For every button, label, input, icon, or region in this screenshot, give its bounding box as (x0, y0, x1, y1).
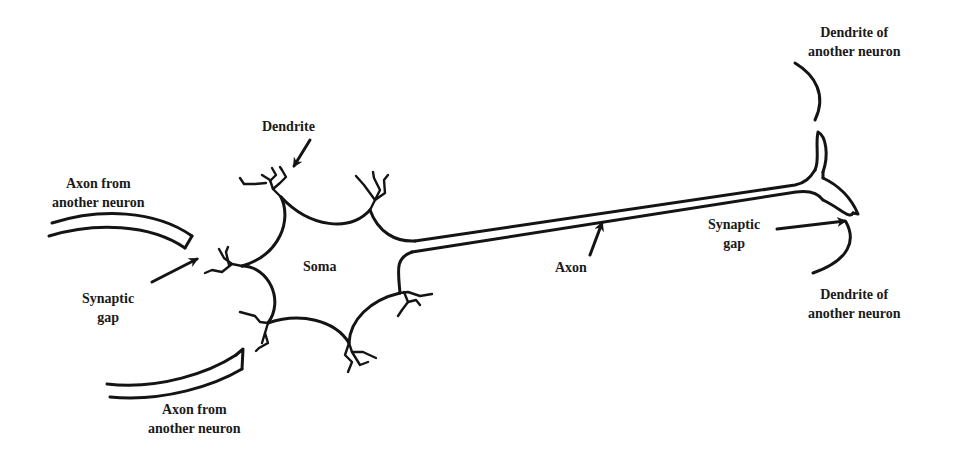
label-line-2: another neuron (52, 193, 144, 212)
neuron-diagram: Dendrite Soma Axon Axon from another neu… (0, 0, 963, 456)
synaptic-gap-left-arrow (152, 259, 197, 282)
label-soma-text: Soma (303, 257, 336, 276)
label-line-2: another neuron (808, 304, 900, 323)
label-line-1: Dendrite of (808, 23, 900, 42)
label-axon-from-another-neuron-top: Axon from another neuron (52, 174, 144, 212)
other-neuron-dendrites (795, 63, 850, 273)
label-synaptic-gap-left: Synaptic gap (82, 289, 134, 327)
incoming-axon-top (49, 214, 192, 248)
axon-shaft (412, 170, 823, 252)
label-axon-text: Axon (555, 258, 587, 277)
label-axon: Axon (555, 258, 587, 277)
label-soma: Soma (303, 257, 336, 276)
label-line-2: gap (708, 234, 760, 253)
label-line-1: Synaptic (82, 289, 134, 308)
label-dendrite-of-another-neuron-bottom: Dendrite of another neuron (808, 285, 900, 323)
axon-arrow (590, 223, 602, 255)
synaptic-gap-right-arrow (777, 221, 845, 229)
label-line-2: gap (82, 308, 134, 327)
label-line-1: Axon from (148, 400, 240, 419)
label-dendrite: Dendrite (262, 117, 315, 136)
incoming-axon-bottom (107, 349, 243, 398)
label-line-1: Dendrite of (808, 285, 900, 304)
label-line-2: another neuron (808, 42, 900, 61)
label-line-2: another neuron (148, 419, 240, 438)
axon-terminal (815, 132, 858, 215)
label-line-1: Axon from (52, 174, 144, 193)
label-dendrite-of-another-neuron-top: Dendrite of another neuron (808, 23, 900, 61)
label-axon-from-another-neuron-bottom: Axon from another neuron (148, 400, 240, 438)
neuron-drawing (0, 0, 963, 456)
dendrite-arrow (294, 140, 310, 166)
label-line-1: Synaptic (708, 215, 760, 234)
label-dendrite-text: Dendrite (262, 117, 315, 136)
label-synaptic-gap-right: Synaptic gap (708, 215, 760, 253)
